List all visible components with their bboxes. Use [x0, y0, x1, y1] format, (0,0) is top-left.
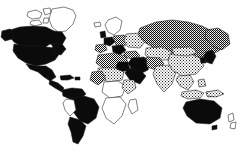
region-united-kingdom: [100, 31, 106, 38]
region-tasmania: [212, 125, 217, 130]
map-figure: [0, 0, 238, 153]
region-korea: [200, 57, 206, 63]
region-iceland: [94, 22, 101, 27]
world-map-svg: [0, 0, 238, 153]
world-map-canvas: [0, 0, 238, 153]
region-alaska: [1, 29, 14, 41]
